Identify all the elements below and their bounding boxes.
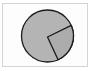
- pie-chart: [0, 0, 91, 71]
